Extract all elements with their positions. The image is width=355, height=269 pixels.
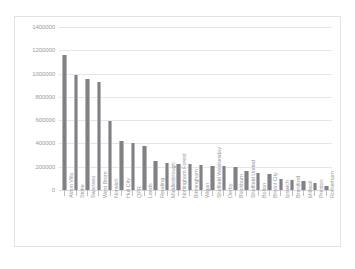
bar[interactable] <box>165 163 169 190</box>
bar-slot <box>287 27 298 190</box>
x-axis-tick-label: Nottingham Forest <box>181 154 187 198</box>
bar-slot <box>321 27 332 190</box>
x-axis-tick-label: Brentford <box>295 176 301 198</box>
x-axis-tick-mark <box>326 190 327 196</box>
y-axis-tick-label: 400000 <box>36 140 55 146</box>
bar-slot <box>275 27 286 190</box>
x-axis-label-slot: Leeds <box>139 198 150 246</box>
bar[interactable] <box>119 141 123 190</box>
x-axis-label-slot: Brentford <box>287 198 298 246</box>
x-axis-tick-mark <box>178 190 179 196</box>
x-axis-tick-label: Reading <box>158 178 164 198</box>
x-axis-label-slot: Preston <box>309 198 320 246</box>
x-axis-label-slot: West Brom <box>93 198 104 246</box>
bar-slot <box>139 27 150 190</box>
x-axis-tick-label: Rotherham <box>329 171 335 198</box>
x-axis-tick-label: Bolton <box>261 183 267 198</box>
x-axis-tick-label: Sheffield United <box>249 160 255 198</box>
bar-slot <box>93 27 104 190</box>
x-axis-tick-mark <box>167 190 168 196</box>
x-axis-label-slot: Rotherham <box>321 198 332 246</box>
x-axis-tick-label: Swansea <box>90 176 96 198</box>
x-axis-tick-mark <box>64 190 65 196</box>
x-axis-label-slot: Middlesbrough <box>161 198 172 246</box>
bar[interactable] <box>244 171 248 190</box>
x-axis-tick-label: Sheffield Wednesday <box>215 147 221 198</box>
x-axis-label-slot: Millwall <box>298 198 309 246</box>
bar[interactable] <box>279 179 283 190</box>
x-axis-tick-label: Ipswich <box>283 180 289 198</box>
x-axis-tick-mark <box>292 190 293 196</box>
chart-container: 1400000120000010000008000006000004000002… <box>14 16 341 247</box>
x-axis-label-slot: Swansea <box>82 198 93 246</box>
x-axis-label-slot: Wigan <box>196 198 207 246</box>
bar[interactable] <box>313 183 317 190</box>
x-axis-tick-label: Leeds <box>147 183 153 198</box>
y-axis-tick-label: 1400000 <box>32 24 55 30</box>
y-axis-tick-label: 800000 <box>36 94 55 100</box>
y-axis-tick-label: 0 <box>52 187 55 193</box>
bar-slot <box>196 27 207 190</box>
bar[interactable] <box>222 166 226 190</box>
x-axis-tick-mark <box>201 190 202 196</box>
x-axis-tick-label: West Brom <box>101 171 107 198</box>
x-axis-labels: Aston VillaStokeSwanseaWest BromNorwichH… <box>59 198 332 246</box>
x-axis-tick-label: Stoke <box>79 184 85 198</box>
bar-slot <box>116 27 127 190</box>
bar-slot <box>82 27 93 190</box>
x-axis-tick-label: Birmingham <box>192 169 198 198</box>
x-axis-tick-mark <box>246 190 247 196</box>
x-axis-tick-label: QPR <box>136 186 142 198</box>
x-axis-label-slot: Aston Villa <box>59 198 70 246</box>
x-axis-label-slot: Reading <box>150 198 161 246</box>
cropped-toolbar-strip: · · · · · · <box>0 0 355 9</box>
bar-slot <box>127 27 138 190</box>
bar-slot <box>70 27 81 190</box>
toolbar-ghost-text: · · · · · · <box>0 0 24 4</box>
x-axis-tick-mark <box>212 190 213 196</box>
x-axis-label-slot: Norwich <box>105 198 116 246</box>
bar[interactable] <box>256 173 260 190</box>
bar[interactable] <box>74 75 78 190</box>
bar[interactable] <box>301 181 305 190</box>
x-axis-tick-label: Millwall <box>306 181 312 198</box>
x-axis-label-slot: Sheffield Wednesday <box>207 198 218 246</box>
x-axis-tick-mark <box>314 190 315 196</box>
bar[interactable] <box>210 166 214 190</box>
x-axis-tick-mark <box>235 190 236 196</box>
x-axis-tick-mark <box>110 190 111 196</box>
bar-slot <box>230 27 241 190</box>
bar[interactable] <box>153 161 157 190</box>
x-axis-label-slot: Hull City <box>116 198 127 246</box>
x-axis-tick-mark <box>303 190 304 196</box>
x-axis-tick-label: Preston <box>318 179 324 198</box>
bar-slot <box>105 27 116 190</box>
x-axis-tick-mark <box>76 190 77 196</box>
bar[interactable] <box>188 164 192 190</box>
x-axis-tick-label: Middlesbrough <box>170 163 176 198</box>
x-axis-label-slot: Birmingham <box>184 198 195 246</box>
x-axis-label-slot: QPR <box>127 198 138 246</box>
bar-slot <box>264 27 275 190</box>
x-axis-tick-mark <box>132 190 133 196</box>
x-axis-tick-mark <box>155 190 156 196</box>
x-axis-tick-mark <box>280 190 281 196</box>
bar-slot <box>309 27 320 190</box>
x-axis-tick-mark <box>144 190 145 196</box>
y-axis-tick-label: 1000000 <box>32 71 55 77</box>
x-axis-tick-label: Derby <box>227 184 233 198</box>
x-axis-label-slot: Sheffield United <box>241 198 252 246</box>
bar-series <box>59 27 332 190</box>
bar[interactable] <box>85 79 89 190</box>
x-axis-label-slot: Bristol City <box>264 198 275 246</box>
x-axis-tick-mark <box>98 190 99 196</box>
x-axis-tick-mark <box>269 190 270 196</box>
bar[interactable] <box>62 55 66 190</box>
bar-slot <box>59 27 70 190</box>
bar[interactable] <box>131 143 135 190</box>
bar[interactable] <box>97 82 101 190</box>
x-axis-tick-mark <box>223 190 224 196</box>
x-axis-label-slot: Blackburn <box>230 198 241 246</box>
y-axis-tick-label: 200000 <box>36 164 55 170</box>
x-axis-tick-label: Wigan <box>204 183 210 198</box>
